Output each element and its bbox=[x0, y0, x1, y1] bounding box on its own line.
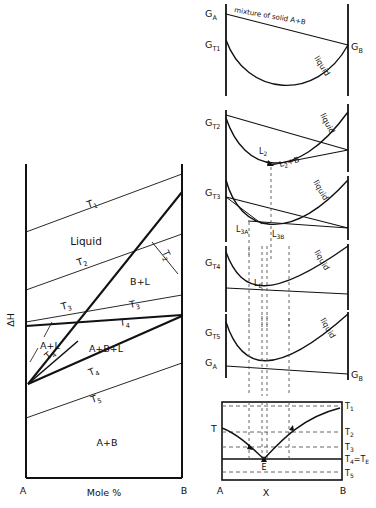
panel3-label-L3B: L3B bbox=[272, 230, 284, 240]
iso-T4c-sub: 4 bbox=[94, 369, 101, 378]
panel4-label-liquid: liquid bbox=[312, 249, 331, 272]
region-label-a-plus-b: A+B bbox=[97, 437, 118, 448]
svg-text:T1: T1 bbox=[344, 402, 354, 412]
phase-temp-label-T2: T2 bbox=[344, 428, 354, 438]
panel1-label-mixture: mixture of solid A+B bbox=[234, 6, 307, 26]
figure-root: Liquid B+L A+L A+B+L A+B T1 T2 T2 T3 T3 … bbox=[0, 0, 376, 508]
svg-text:T4=TE: T4=TE bbox=[344, 455, 369, 465]
svg-text:T3: T3 bbox=[127, 297, 140, 312]
svg-text:liquid: liquid bbox=[318, 112, 336, 136]
phase-x-label-A: A bbox=[217, 485, 224, 496]
liquidus-arrow-B bbox=[289, 425, 294, 431]
isotherm-label-T4-lower: T4 bbox=[86, 364, 101, 381]
panel1-liquid-curve bbox=[226, 40, 348, 85]
iso-T1-sub: 1 bbox=[92, 202, 98, 211]
liquidus-branch-B bbox=[264, 408, 340, 459]
iso-T5-sub: 5 bbox=[96, 397, 102, 406]
svg-text:liquid: liquid bbox=[312, 249, 331, 272]
panel5-label-GT5: GT5 bbox=[205, 327, 220, 341]
isotherm-label-T2-right: T2 bbox=[157, 247, 174, 262]
iso-T3b-sub: 3 bbox=[135, 303, 140, 312]
panel1-label-GB: GB bbox=[351, 41, 363, 55]
isotherm-label-T3-left: T3 bbox=[59, 299, 73, 315]
panel2-label-liquid: liquid bbox=[318, 112, 336, 136]
svg-text:ΔH: ΔH bbox=[5, 313, 16, 327]
svg-text:T2: T2 bbox=[157, 247, 174, 262]
svg-text:T3: T3 bbox=[344, 443, 354, 453]
svg-text:GB: GB bbox=[351, 41, 363, 55]
region-label-a-plus-l: A+L bbox=[40, 340, 60, 351]
panel3-label-GT3: GT3 bbox=[205, 187, 220, 201]
svg-text:T5: T5 bbox=[344, 469, 354, 479]
phase-temp-label-T1: T1 bbox=[344, 402, 354, 412]
svg-text:L2: L2 bbox=[259, 147, 267, 157]
panel2-label-L2: L2 bbox=[259, 147, 267, 157]
panel1-label-GA: GA bbox=[205, 8, 217, 22]
svg-text:mixture of solid A+B: mixture of solid A+B bbox=[234, 6, 307, 26]
phase-diagram-panel: T E A X B T1 T2 T3 T4=TE T5 bbox=[210, 402, 369, 498]
isotherm-T3-line bbox=[26, 295, 182, 322]
liquidus-branch-A bbox=[222, 428, 264, 459]
right-panel-T5: GT5 GA GB liquid bbox=[205, 312, 363, 396]
right-panel-T2: GT2 liquid L2 L2+B bbox=[205, 104, 348, 190]
panel1-label-liquid: liquid bbox=[312, 54, 331, 77]
left-panel: Liquid B+L A+L A+B+L A+B T1 T2 T2 T3 T3 … bbox=[5, 164, 187, 498]
iso-T2-sub: 2 bbox=[82, 260, 88, 269]
diagram-svg: Liquid B+L A+L A+B+L A+B T1 T2 T2 T3 T3 … bbox=[0, 0, 376, 508]
phase-temp-label-T5: T5 bbox=[344, 469, 354, 479]
svg-text:LE: LE bbox=[254, 279, 262, 289]
svg-text:GT4: GT4 bbox=[205, 257, 220, 271]
svg-text:GA: GA bbox=[205, 357, 217, 371]
svg-text:liquid: liquid bbox=[311, 179, 330, 202]
panel3-label-liquid: liquid bbox=[311, 179, 330, 202]
svg-text:GB: GB bbox=[351, 369, 363, 383]
svg-text:T1: T1 bbox=[84, 196, 99, 212]
panel2-label-L2-plus-B: L2+B bbox=[278, 155, 300, 170]
panel1-label-GT1: GT1 bbox=[205, 39, 220, 53]
iso-T4-sub: 4 bbox=[125, 321, 130, 329]
phase-y-axis-label: T bbox=[210, 423, 217, 434]
leader-AL bbox=[30, 348, 38, 362]
panel5-label-GB: GB bbox=[351, 369, 363, 383]
svg-text:GA: GA bbox=[205, 8, 217, 22]
panel4-common-tangent bbox=[226, 288, 348, 294]
isotherm-T5-line bbox=[26, 363, 182, 418]
isotherm-T4-upper bbox=[26, 315, 182, 326]
svg-text:T4: T4 bbox=[86, 364, 101, 381]
phase-temp-label-T4-eutectic: T4=TE bbox=[344, 455, 369, 465]
isotherm-label-T3-right: T3 bbox=[127, 297, 140, 312]
isotherm-T2-line bbox=[26, 234, 182, 290]
svg-text:GT5: GT5 bbox=[205, 327, 220, 341]
svg-text:L3A: L3A bbox=[236, 225, 249, 235]
left-x-label-B: B bbox=[181, 485, 188, 496]
panel4-label-GT4: GT4 bbox=[205, 257, 220, 271]
iso-T3-sub: 3 bbox=[67, 304, 73, 313]
svg-text:T3: T3 bbox=[59, 299, 73, 315]
panel5-solid-mixture-line bbox=[226, 366, 348, 374]
isotherm-label-T1: T1 bbox=[84, 196, 99, 212]
left-y-axis-label: ΔH bbox=[5, 313, 16, 327]
phase-temp-label-T3: T3 bbox=[344, 443, 354, 453]
isotherm-T1-line bbox=[26, 174, 182, 232]
svg-text:L2+B: L2+B bbox=[278, 155, 300, 170]
panel2-label-GT2: GT2 bbox=[205, 117, 220, 131]
svg-text:GT2: GT2 bbox=[205, 117, 220, 131]
region-label-a-b-l: A+B+L bbox=[89, 343, 124, 354]
svg-text:liquid: liquid bbox=[312, 54, 331, 77]
region-label-liquid: Liquid bbox=[70, 235, 102, 247]
phase-eutectic-point-label: E bbox=[261, 463, 266, 472]
left-x-label-A: A bbox=[20, 485, 27, 496]
svg-text:GT1: GT1 bbox=[205, 39, 220, 53]
left-x-axis-title: Mole % bbox=[87, 487, 122, 498]
panel5-label-GA: GA bbox=[205, 357, 217, 371]
phase-x-label-X: X bbox=[263, 487, 270, 498]
phase-x-label-B: B bbox=[340, 485, 347, 496]
region-label-b-plus-l: B+L bbox=[130, 276, 150, 287]
svg-text:GT3: GT3 bbox=[205, 187, 220, 201]
svg-text:L3B: L3B bbox=[272, 230, 284, 240]
panel4-label-LE: LE bbox=[254, 279, 262, 289]
panel3-label-L3A: L3A bbox=[236, 225, 249, 235]
svg-text:T2: T2 bbox=[344, 428, 354, 438]
right-panel-T1: GA GT1 GB mixture of solid A+B liquid bbox=[205, 4, 363, 96]
